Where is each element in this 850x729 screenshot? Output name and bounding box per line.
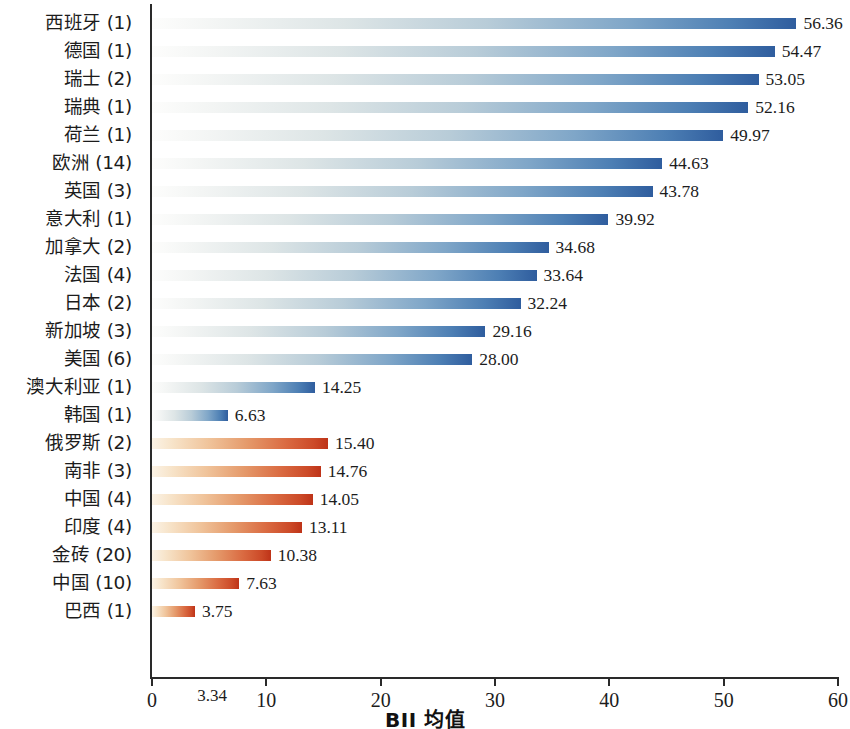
bar: [152, 354, 472, 365]
category-label: 澳大利亚 (1): [0, 373, 132, 401]
bar-row: 澳大利亚 (1)14.25: [152, 373, 838, 401]
bar: [152, 298, 521, 309]
bar-row: 英国 (3)43.78: [152, 177, 838, 205]
bar: [152, 214, 608, 225]
bar: [152, 578, 239, 589]
category-label: 荷兰 (1): [0, 121, 132, 149]
category-label: 加拿大 (2): [0, 233, 132, 261]
bar: [152, 522, 302, 533]
x-axis-tick: [837, 677, 839, 686]
bar-value-label: 44.63: [662, 149, 708, 177]
bar-value-label: 29.16: [485, 317, 531, 345]
category-label: 新加坡 (3): [0, 317, 132, 345]
bar: [152, 438, 328, 449]
bar: [152, 382, 315, 393]
bar: [152, 186, 653, 197]
bar-row: 瑞典 (1)52.16: [152, 93, 838, 121]
category-label: 俄罗斯 (2): [0, 429, 132, 457]
category-label: 中国 (10): [0, 569, 132, 597]
bar: [152, 242, 549, 253]
bar-row: 印度 (4)13.11: [152, 513, 838, 541]
category-label: 欧洲 (14): [0, 149, 132, 177]
bar-row: 俄罗斯 (2)15.40: [152, 429, 838, 457]
bar: [152, 550, 271, 561]
bar-row: 日本 (2)32.24: [152, 289, 838, 317]
category-label: 金砖 (20): [0, 541, 132, 569]
bar-value-label: 33.64: [537, 261, 583, 289]
category-label: 瑞典 (1): [0, 93, 132, 121]
bar-row: 南非 (3)14.76: [152, 457, 838, 485]
bar-value-label: 28.00: [472, 345, 518, 373]
x-axis-tick: [723, 677, 725, 686]
bar-row: 韩国 (1)6.63: [152, 401, 838, 429]
bar: [152, 270, 537, 281]
category-label: 瑞士 (2): [0, 65, 132, 93]
bar-value-label: 15.40: [328, 429, 374, 457]
bar-value-label: 14.76: [321, 457, 367, 485]
bar-row: 加拿大 (2)34.68: [152, 233, 838, 261]
bar-row: 新加坡 (3)29.16: [152, 317, 838, 345]
bar-row: 西班牙 (1)56.36: [152, 9, 838, 37]
bar-value-label: 32.24: [521, 289, 567, 317]
bar-row: 欧洲 (14)44.63: [152, 149, 838, 177]
x-axis-title: BII 均值: [0, 704, 850, 729]
bar-value-label: 34.68: [549, 233, 595, 261]
bar-value-label: 10.38: [271, 541, 317, 569]
bar-row: 金砖 (20)10.38: [152, 541, 838, 569]
bar-row: 德国 (1)54.47: [152, 37, 838, 65]
x-axis-tick: [380, 677, 382, 686]
bar-row: 荷兰 (1)49.97: [152, 121, 838, 149]
bar: [152, 158, 662, 169]
bar-value-label: 54.47: [775, 37, 821, 65]
bar-value-label: 14.25: [315, 373, 361, 401]
bar-row: 法国 (4)33.64: [152, 261, 838, 289]
bar: [152, 466, 321, 477]
bar-row: 意大利 (1)39.92: [152, 205, 838, 233]
bar: [152, 410, 228, 421]
category-label: 德国 (1): [0, 37, 132, 65]
bar: [152, 130, 723, 141]
category-label: 英国 (3): [0, 177, 132, 205]
category-label: 南非 (3): [0, 457, 132, 485]
plot-area: 西班牙 (1)56.36德国 (1)54.47瑞士 (2)53.05瑞典 (1)…: [152, 4, 838, 677]
category-label: 法国 (4): [0, 261, 132, 289]
bii-bar-chart: 西班牙 (1)56.36德国 (1)54.47瑞士 (2)53.05瑞典 (1)…: [0, 0, 850, 729]
bar: [152, 18, 796, 29]
bar: [152, 494, 313, 505]
x-axis-tick: [608, 677, 610, 686]
x-axis-tick: [494, 677, 496, 686]
bar: [152, 46, 775, 57]
category-label: 西班牙 (1): [0, 9, 132, 37]
bar-value-label: 56.36: [796, 9, 842, 37]
bar: [152, 102, 748, 113]
bar: [152, 74, 759, 85]
category-label: 中国 (4): [0, 485, 132, 513]
bar-row: 巴西 (1)3.75: [152, 597, 838, 625]
bar-value-label: 7.63: [239, 569, 277, 597]
bar-value-label: 6.63: [228, 401, 266, 429]
bar-value-label: 43.78: [653, 177, 699, 205]
bar-value-label: 3.75: [195, 597, 233, 625]
bar-row: 中国 (4)14.05: [152, 485, 838, 513]
bar-value-label: 49.97: [723, 121, 769, 149]
bar: [152, 326, 485, 337]
category-label: 意大利 (1): [0, 205, 132, 233]
bar-row: 中国 (10)7.63: [152, 569, 838, 597]
x-axis-tick: [265, 677, 267, 686]
x-axis-tick: [151, 677, 153, 686]
bar-value-label: 53.05: [759, 65, 805, 93]
bar-row: 瑞士 (2)53.05: [152, 65, 838, 93]
bar-row: 美国 (6)28.00: [152, 345, 838, 373]
category-label: 美国 (6): [0, 345, 132, 373]
bar-value-label: 52.16: [748, 93, 794, 121]
bar-value-label: 13.11: [302, 513, 348, 541]
category-label: 日本 (2): [0, 289, 132, 317]
bar: [152, 606, 195, 617]
category-label: 印度 (4): [0, 513, 132, 541]
bar-value-label: 14.05: [313, 485, 359, 513]
bar-value-label: 39.92: [608, 205, 654, 233]
category-label: 韩国 (1): [0, 401, 132, 429]
category-label: 巴西 (1): [0, 597, 132, 625]
